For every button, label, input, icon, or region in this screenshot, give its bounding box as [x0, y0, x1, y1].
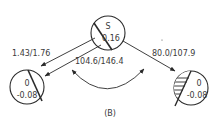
edge-label-inner: 104.6/146.4	[75, 57, 124, 66]
stray-dot	[161, 39, 162, 40]
node-source-bottom: 0.16	[102, 34, 120, 43]
exchange-arc-arrow	[72, 69, 144, 89]
node-left-bottom: -0.08	[17, 91, 38, 100]
node-right-top: 0	[196, 79, 201, 88]
diagram-canvas: S 0.16 0 -0.08 0 -0.08 1.43/1.7	[0, 0, 219, 125]
node-source-top: S	[105, 22, 110, 31]
figure-caption: (B)	[104, 109, 116, 118]
edge-label-right: 80.0/107.9	[152, 49, 195, 58]
node-left: 0 -0.08	[10, 70, 44, 104]
node-left-top: 0	[24, 79, 29, 88]
edge-label-outer: 1.43/1.76	[12, 49, 50, 58]
node-right-bottom: -0.08	[187, 91, 208, 100]
node-right: 0 -0.08	[172, 70, 208, 106]
node-source: S 0.16	[91, 16, 125, 50]
